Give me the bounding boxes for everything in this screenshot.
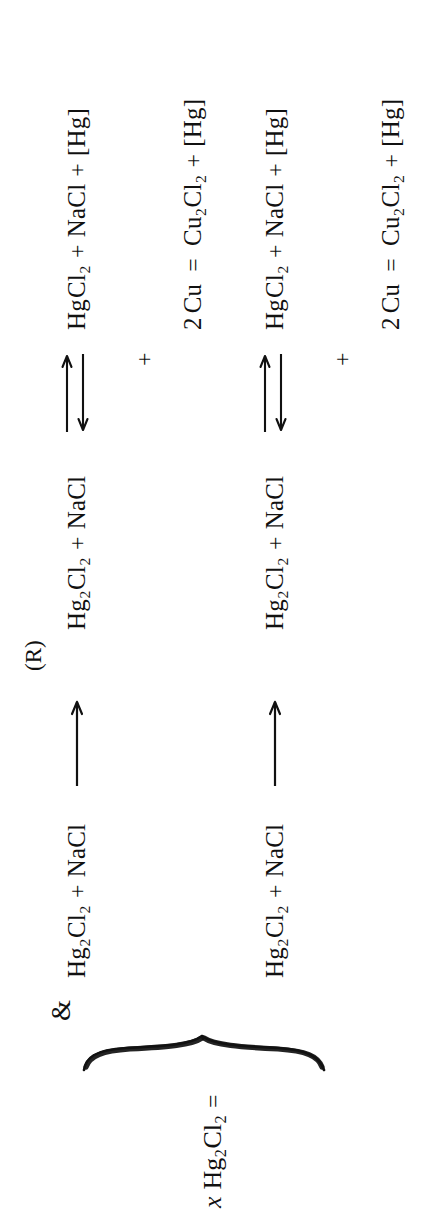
r1-below-coeff: 2	[179, 317, 206, 330]
r2-left-cl: Cl	[261, 914, 288, 938]
summary-expression: xHg2Cl2=	[200, 1087, 229, 1208]
r2-left-cl-sub: 2	[274, 905, 291, 914]
reaction-1-below-plus: +	[132, 352, 156, 366]
r2-mid-cl: Cl	[261, 566, 288, 590]
single-right-arrow-reaction-1	[66, 692, 88, 788]
r1-left-hg-sub: 2	[76, 938, 93, 947]
r1-left-cl: Cl	[63, 914, 90, 938]
r1-right-nacl: NaCl	[63, 184, 90, 238]
r1-below-hg-bracket: [Hg]	[179, 99, 206, 147]
r2-left-nacl: NaCl	[261, 824, 288, 878]
reaction-2-below-term: 2Cu=Cu2Cl2+[Hg]	[378, 99, 406, 330]
r1-left-hg: Hg	[63, 947, 90, 978]
r1-right-hg: Hg	[63, 299, 90, 330]
r2-left-hg: Hg	[261, 947, 288, 978]
reversible-arrow-reaction-1	[58, 350, 92, 436]
r2-right-plus-1: +	[263, 237, 287, 265]
r2-right-hg-bracket: [Hg]	[261, 108, 288, 156]
summary-equals: =	[201, 1087, 225, 1115]
r2-mid-hg-sub: 2	[274, 590, 291, 599]
r2-below-prod-cl-sub: 2	[390, 174, 407, 183]
r1-right-cl-sub: 2	[76, 265, 93, 274]
r1-mid-nacl: NaCl	[63, 476, 90, 530]
r1-right-hg-bracket: [Hg]	[63, 108, 90, 156]
r1-left-plus: +	[65, 877, 89, 905]
r2-mid-plus: +	[263, 529, 287, 557]
reaction-2-middle-term: Hg2Cl2+NaCl	[262, 476, 290, 630]
r2-below-prod-cl: Cl	[377, 183, 404, 207]
scanned-equation-sheet: xHg2Cl2= & (R) Hg2Cl2+NaCl Hg2Cl2+NaCl H…	[0, 0, 447, 1226]
r2-left-hg-sub: 2	[274, 938, 291, 947]
reaction-1-middle-term: Hg2Cl2+NaCl	[64, 476, 92, 630]
r2-right-cl-sub: 2	[274, 265, 291, 274]
reaction-label: (R)	[22, 640, 45, 671]
reversible-arrow-reaction-2	[256, 350, 290, 436]
r1-below-equals: =	[181, 246, 205, 284]
r2-below-plus-2: +	[379, 147, 403, 175]
reaction-2-below-plus: +	[330, 352, 354, 366]
r1-mid-hg-sub: 2	[76, 590, 93, 599]
rotated-page-stage: xHg2Cl2= & (R) Hg2Cl2+NaCl Hg2Cl2+NaCl H…	[0, 0, 447, 1226]
r2-mid-nacl: NaCl	[261, 476, 288, 530]
r2-below-cu: Cu	[377, 284, 404, 314]
r1-below-cu: Cu	[179, 284, 206, 314]
r1-mid-hg: Hg	[63, 599, 90, 630]
reaction-1-left-term: Hg2Cl2+NaCl	[64, 824, 92, 978]
r1-left-nacl: NaCl	[63, 824, 90, 878]
r1-mid-cl-sub: 2	[76, 557, 93, 566]
r2-below-prod-cu: Cu	[377, 216, 404, 246]
r1-mid-plus: +	[65, 529, 89, 557]
summary-formula-sub-1: 2	[212, 1149, 229, 1158]
r1-right-hg-sub	[76, 298, 93, 299]
r1-mid-cl: Cl	[63, 566, 90, 590]
reaction-2-left-term: Hg2Cl2+NaCl	[262, 824, 290, 978]
r2-left-plus: +	[263, 877, 287, 905]
r2-mid-hg: Hg	[261, 599, 288, 630]
r2-right-hg-sub	[274, 298, 291, 299]
r2-below-coeff: 2	[377, 317, 404, 330]
r1-below-prod-cu-sub: 2	[192, 207, 209, 216]
r2-right-hg: Hg	[261, 299, 288, 330]
r1-right-plus-2: +	[65, 156, 89, 184]
summary-formula-hg: Hg	[198, 1158, 227, 1190]
r2-mid-cl-sub: 2	[274, 557, 291, 566]
summary-formula-sub-2: 2	[212, 1115, 229, 1124]
single-right-arrow-reaction-2	[264, 692, 286, 788]
r1-right-plus-1: +	[65, 237, 89, 265]
r1-right-cl: Cl	[63, 274, 90, 298]
summary-formula-cl: Cl	[198, 1124, 227, 1149]
r2-below-prod-cu-sub: 2	[390, 207, 407, 216]
r2-below-hg-bracket: [Hg]	[377, 99, 404, 147]
summary-coefficient: x	[198, 1196, 227, 1208]
r1-below-prod-cl: Cl	[179, 183, 206, 207]
r2-right-plus-2: +	[263, 156, 287, 184]
r1-below-prod-cl-sub: 2	[192, 174, 209, 183]
r1-below-plus-2: +	[181, 147, 205, 175]
r2-right-nacl: NaCl	[261, 184, 288, 238]
r1-left-cl-sub: 2	[76, 905, 93, 914]
r1-below-prod-cu: Cu	[179, 216, 206, 246]
reaction-1-below-term: 2Cu=Cu2Cl2+[Hg]	[180, 99, 208, 330]
ampersand-symbol: &	[48, 1000, 75, 1021]
curly-brace	[80, 1032, 330, 1076]
r2-below-equals: =	[379, 246, 403, 284]
r2-right-cl: Cl	[261, 274, 288, 298]
reaction-1-right-term: HgCl2+NaCl+[Hg]	[64, 108, 92, 330]
reaction-2-right-term: HgCl2+NaCl+[Hg]	[262, 108, 290, 330]
